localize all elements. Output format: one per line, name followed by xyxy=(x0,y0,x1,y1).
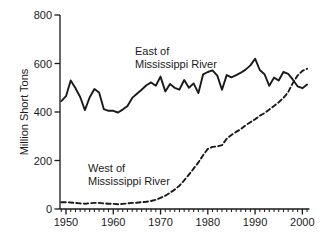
east-series-label: East of Mississippi River xyxy=(135,45,217,71)
east-series-label-line1: East of xyxy=(135,45,217,58)
y-tick-label: 600 xyxy=(34,58,52,70)
chart-svg: 0200400600800195019601970198019902000 xyxy=(0,0,328,246)
x-tick-label: 1970 xyxy=(148,216,172,228)
y-axis-title: Million Short Tons xyxy=(18,69,30,156)
y-axis-ticks: 0200400600800 xyxy=(34,9,60,215)
y-tick-label: 800 xyxy=(34,9,52,21)
x-tick-label: 1960 xyxy=(101,216,125,228)
x-tick-label: 1950 xyxy=(54,216,78,228)
x-tick-label: 1980 xyxy=(196,216,220,228)
west-series-label-line2: Mississippi River xyxy=(88,175,170,188)
y-tick-label: 400 xyxy=(34,106,52,118)
west-series-label-line1: West of xyxy=(88,162,170,175)
y-tick-label: 200 xyxy=(34,155,52,167)
chart-container: 0200400600800195019601970198019902000 Mi… xyxy=(0,0,328,246)
x-tick-label: 1990 xyxy=(243,216,267,228)
east-series-label-line2: Mississippi River xyxy=(135,58,217,71)
y-tick-label: 0 xyxy=(46,203,52,215)
x-tick-label: 2000 xyxy=(290,216,314,228)
west-series-label: West of Mississippi River xyxy=(88,162,170,188)
